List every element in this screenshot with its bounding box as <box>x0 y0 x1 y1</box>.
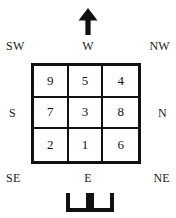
compass-grid-figure: SW W NW S N SE E NE 9 5 4 7 3 8 2 1 6 <box>0 0 176 218</box>
grid-cell-r3c1: 2 <box>34 129 69 161</box>
up-arrow-icon <box>72 6 104 36</box>
compass-label-ne: NE <box>153 171 170 185</box>
grid-cell-r1c3: 4 <box>103 66 138 98</box>
grid-cell-r2c3: 8 <box>103 98 138 130</box>
compass-label-nw: NW <box>149 39 170 53</box>
number-grid: 9 5 4 7 3 8 2 1 6 <box>31 63 141 164</box>
grid-cell-r3c2: 1 <box>69 129 104 161</box>
grid-cell-r2c2: 3 <box>69 98 104 130</box>
compass-label-e: E <box>0 171 176 185</box>
grid-cell-r3c3: 6 <box>103 129 138 161</box>
grid-cell-r1c1: 9 <box>34 66 69 98</box>
double-u-bracket-icon <box>66 193 114 212</box>
grid-cell-r1c2: 5 <box>69 66 104 98</box>
compass-label-n: N <box>158 106 167 120</box>
compass-label-s: S <box>9 106 16 120</box>
grid-cell-r2c1: 7 <box>34 98 69 130</box>
